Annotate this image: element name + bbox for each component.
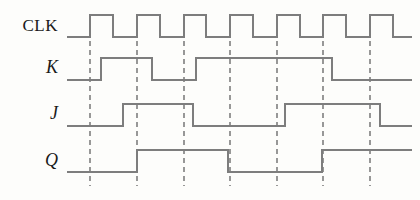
signal-waveforms: [67, 15, 412, 172]
clock-edge-dashed-lines: [90, 14, 370, 186]
waveform-j: [67, 104, 412, 126]
waveform-k: [67, 58, 412, 80]
waveform-canvas: [0, 0, 420, 200]
waveform-q: [67, 150, 412, 172]
timing-diagram-figure: CLK K J Q: [0, 0, 420, 200]
waveform-clk: [67, 15, 412, 37]
